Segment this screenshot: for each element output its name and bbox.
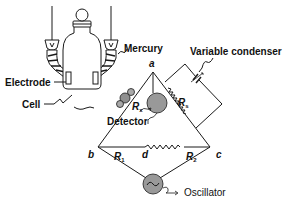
rx-label: Rx	[132, 101, 143, 113]
condenser-wire-top	[165, 64, 185, 82]
oscillator-leader	[163, 187, 177, 193]
rs-label: Rs	[178, 97, 189, 109]
node-c-label: c	[216, 149, 222, 160]
mercury-label: Mercury	[124, 43, 163, 54]
variable-condenser-label: Variable condenser	[190, 46, 282, 57]
r2-label: R2	[186, 151, 197, 163]
node-b-label: b	[88, 149, 94, 160]
oscillator-label: Oscillator	[184, 187, 226, 198]
cell-label: Cell	[22, 99, 41, 110]
bridge-circuit-diagram: Mercury Variable condenser Electrode Cel…	[0, 0, 284, 207]
condenser-wire-bottom	[196, 104, 222, 128]
electrode-label: Electrode	[5, 77, 51, 88]
stopper-icon	[76, 9, 88, 21]
right-electrode	[93, 72, 98, 84]
node-d-label: d	[142, 149, 149, 160]
left-terminal-icon	[45, 40, 59, 50]
node-a-label: a	[149, 58, 155, 69]
slide-wire-resistor	[145, 145, 180, 149]
right-terminal-icon	[104, 40, 118, 50]
wire-a-b	[98, 72, 153, 147]
r1-label: R1	[114, 151, 125, 163]
conductance-cell	[44, 6, 127, 109]
wire-c-oscillator	[160, 147, 210, 178]
detector-label: Detector	[107, 116, 148, 127]
condenser-wire-right	[199, 80, 222, 104]
left-electrode	[66, 72, 71, 84]
